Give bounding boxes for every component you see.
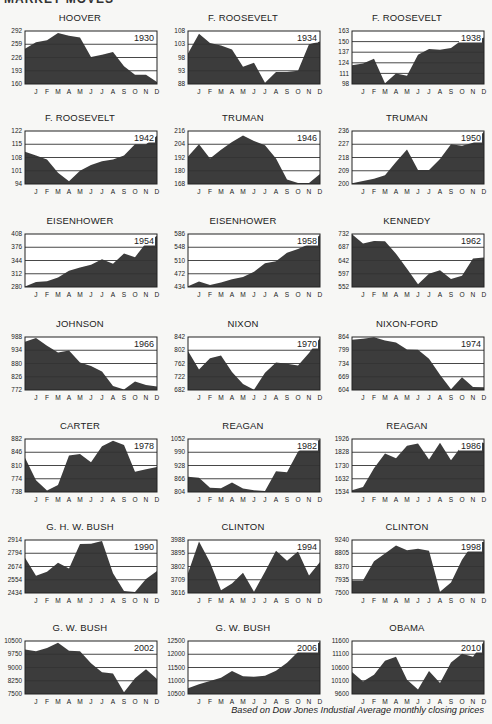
area-chart: 7387748108468821978JFMAMJJASOND <box>0 420 160 520</box>
month-tick-label: S <box>449 496 454 503</box>
year-label: 1954 <box>134 236 154 246</box>
year-label: 1982 <box>297 441 317 451</box>
area-chart: 5525976426877321962JFMAMJJASOND <box>327 215 487 315</box>
month-tick-label: A <box>111 188 116 195</box>
month-tick-label: J <box>34 188 37 195</box>
month-tick-label: S <box>285 698 290 705</box>
source-caption: Based on Dow Jones Industial Average mon… <box>231 705 484 715</box>
month-tick-label: O <box>459 698 464 705</box>
month-tick-label: A <box>111 291 116 298</box>
month-tick-label: F <box>372 394 376 401</box>
month-tick-label: M <box>240 698 246 705</box>
month-tick-label: J <box>416 394 419 401</box>
month-tick-label: N <box>144 88 149 95</box>
y-tick-label: 799 <box>338 346 349 353</box>
month-tick-label: J <box>427 188 430 195</box>
area-chart: 8893981031081934JFMAMJJASOND <box>163 12 323 112</box>
year-label: 2010 <box>461 643 481 653</box>
month-tick-label: O <box>459 291 464 298</box>
month-tick-label: J <box>427 597 430 604</box>
month-tick-label: A <box>111 597 116 604</box>
month-tick-label: J <box>34 597 37 604</box>
month-tick-label: N <box>144 291 149 298</box>
month-tick-label: M <box>382 188 388 195</box>
month-tick-label: N <box>471 291 476 298</box>
y-tick-label: 227 <box>338 140 349 147</box>
month-tick-label: F <box>45 188 49 195</box>
month-tick-label: A <box>230 88 235 95</box>
y-tick-label: 732 <box>338 230 349 237</box>
y-tick-label: 8250 <box>8 677 23 684</box>
y-tick-label: 669 <box>338 373 349 380</box>
month-tick-label: F <box>372 88 376 95</box>
month-tick-label: N <box>144 394 149 401</box>
month-tick-label: O <box>459 394 464 401</box>
chart-panel-clinton-1994: CLINTON361637093802389539881994JFMAMJJAS… <box>163 521 323 621</box>
month-tick-label: J <box>252 88 255 95</box>
area-chart: 941011081151221942JFMAMJJASOND <box>0 112 160 212</box>
month-tick-label: O <box>132 88 137 95</box>
month-tick-label: J <box>263 597 266 604</box>
month-tick-label: J <box>89 188 92 195</box>
y-tick-label: 586 <box>174 230 185 237</box>
month-tick-label: F <box>45 291 49 298</box>
area-chart: 7728268809349881966JFMAMJJASOND <box>0 318 160 418</box>
y-tick-label: 842 <box>174 333 185 340</box>
month-tick-label: N <box>471 698 476 705</box>
month-tick-label: M <box>77 496 83 503</box>
month-tick-label: J <box>252 496 255 503</box>
month-tick-label: D <box>482 394 487 401</box>
month-tick-label: A <box>67 88 72 95</box>
year-label: 1938 <box>461 33 481 43</box>
y-tick-label: 682 <box>174 386 185 393</box>
month-tick-label: D <box>318 88 323 95</box>
y-tick-label: 880 <box>11 360 22 367</box>
month-tick-label: F <box>45 394 49 401</box>
y-tick-label: 2794 <box>8 549 23 556</box>
month-tick-label: N <box>307 88 312 95</box>
y-tick-label: 10500 <box>167 690 185 697</box>
month-tick-label: A <box>67 394 72 401</box>
y-tick-label: 94 <box>15 180 23 187</box>
month-tick-label: M <box>55 394 61 401</box>
month-tick-label: A <box>438 698 443 705</box>
month-tick-label: J <box>100 291 103 298</box>
month-tick-label: A <box>274 496 279 503</box>
month-tick-label: O <box>295 496 300 503</box>
y-tick-label: 11500 <box>168 664 186 671</box>
y-tick-label: 1926 <box>335 435 350 442</box>
y-tick-label: 168 <box>174 180 185 187</box>
y-tick-label: 376 <box>11 243 22 250</box>
month-tick-label: S <box>285 394 290 401</box>
month-tick-label: N <box>307 291 312 298</box>
month-tick-label: M <box>77 291 83 298</box>
month-tick-label: J <box>89 394 92 401</box>
month-tick-label: M <box>404 698 410 705</box>
month-tick-label: O <box>295 698 300 705</box>
month-tick-label: F <box>208 394 212 401</box>
y-tick-label: 3802 <box>171 563 186 570</box>
chart-panel-f-roosevelt-1942: F. ROOSEVELT941011081151221942JFMAMJJASO… <box>0 112 160 212</box>
month-tick-label: O <box>459 597 464 604</box>
month-tick-label: M <box>382 88 388 95</box>
y-tick-label: 810 <box>11 462 22 469</box>
y-tick-label: 150 <box>338 38 349 45</box>
month-tick-label: A <box>438 394 443 401</box>
month-tick-label: D <box>482 698 487 705</box>
chart-panel-f-roosevelt-1938: F. ROOSEVELT981111241371501631938JFMAMJJ… <box>327 12 487 112</box>
month-tick-label: A <box>111 394 116 401</box>
y-tick-label: 772 <box>11 386 22 393</box>
month-tick-label: D <box>155 597 160 604</box>
month-tick-label: J <box>197 496 200 503</box>
month-tick-label: F <box>45 698 49 705</box>
month-tick-label: M <box>55 698 61 705</box>
y-tick-label: 193 <box>11 67 22 74</box>
month-tick-label: F <box>208 597 212 604</box>
month-tick-label: M <box>55 291 61 298</box>
chart-panel-nixon-ford-1974: NIXON-FORD6046697347998641974JFMAMJJASON… <box>327 318 487 418</box>
y-tick-label: 2554 <box>8 576 23 583</box>
y-tick-label: 11000 <box>168 677 186 684</box>
y-tick-label: 774 <box>11 475 22 482</box>
chart-panel-reagan-1986: REAGAN153416321730182819261986JFMAMJJASO… <box>327 420 487 520</box>
month-tick-label: J <box>361 496 364 503</box>
